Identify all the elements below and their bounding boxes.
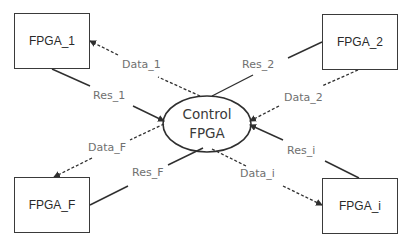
edge-res-2-a bbox=[288, 42, 322, 58]
edge-label-res-i: Res_i bbox=[287, 144, 315, 157]
edge-res-i-a bbox=[325, 161, 359, 178]
node-label: FPGA_1 bbox=[29, 34, 75, 48]
edge-res-1-a bbox=[52, 69, 90, 86]
node-fpga-f: FPGA_F bbox=[14, 177, 90, 233]
edge-data-i-b bbox=[283, 186, 322, 205]
diagram-canvas: FPGA_1 FPGA_2 FPGA_F FPGA_i Control FPGA… bbox=[0, 0, 408, 247]
edge-label-data-i: Data_i bbox=[240, 167, 275, 180]
edge-data-2-a bbox=[322, 70, 358, 86]
node-fpga-2: FPGA_2 bbox=[322, 14, 398, 70]
edge-res-2-b bbox=[212, 75, 253, 96]
node-fpga-i: FPGA_i bbox=[322, 178, 398, 234]
edge-label-data-1: Data_1 bbox=[122, 58, 161, 71]
edge-data-1-a bbox=[158, 77, 200, 96]
node-label: FPGA_F bbox=[29, 198, 76, 212]
edge-data-1-b bbox=[90, 41, 118, 55]
control-fpga-line1: Control bbox=[183, 105, 232, 124]
edge-label-res-1: Res_1 bbox=[93, 89, 125, 102]
edge-data-2-b bbox=[250, 106, 279, 121]
control-fpga-node: Control FPGA bbox=[163, 96, 251, 152]
edge-label-res-2: Res_2 bbox=[242, 58, 274, 71]
edge-data-f-b bbox=[54, 158, 92, 177]
node-fpga-1: FPGA_1 bbox=[14, 13, 90, 69]
edge-label-data-f: Data_F bbox=[88, 141, 126, 154]
control-fpga-line2: FPGA bbox=[189, 124, 225, 143]
node-label: FPGA_2 bbox=[337, 35, 383, 49]
edge-label-data-2: Data_2 bbox=[284, 91, 323, 104]
node-label: FPGA_i bbox=[339, 199, 381, 213]
edge-res-i-b bbox=[250, 125, 283, 140]
edge-data-f-a bbox=[130, 124, 164, 140]
edge-label-res-f: Res_F bbox=[132, 166, 163, 179]
edge-res-1-b bbox=[133, 106, 164, 121]
edge-res-f-a bbox=[90, 186, 128, 205]
